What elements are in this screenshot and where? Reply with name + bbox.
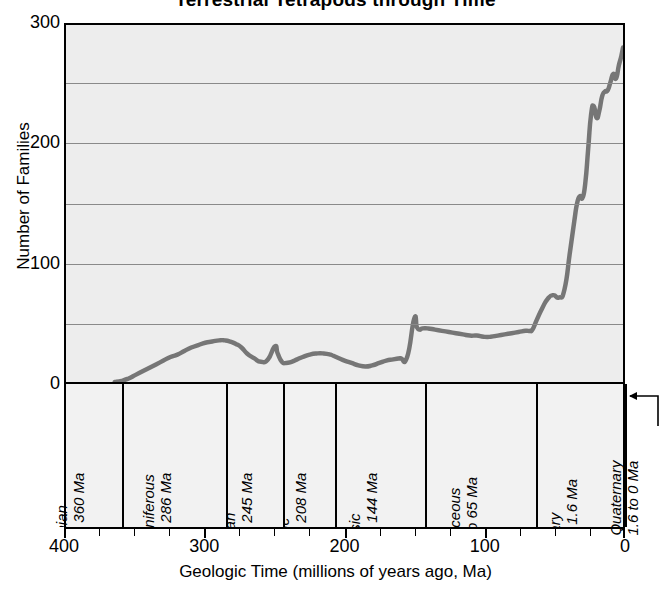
x-minor-tick xyxy=(239,529,240,536)
x-tick-label: 200 xyxy=(305,536,385,557)
period-range: 286 to 245 Ma xyxy=(239,473,256,527)
gridline xyxy=(66,324,623,325)
x-minor-tick xyxy=(99,529,100,536)
plot-area xyxy=(64,23,625,384)
quaternary-leader-arrow-icon xyxy=(628,388,671,428)
x-minor-tick xyxy=(555,529,556,536)
x-minor-tick xyxy=(169,529,170,536)
quaternary-name: Quaternary xyxy=(608,461,625,536)
period-range: 245 to 208 Ma xyxy=(294,473,311,527)
period-range: 144 to 65 Ma xyxy=(465,477,482,527)
period-name: Permian xyxy=(226,473,239,527)
x-minor-tick xyxy=(274,529,275,536)
x-tick-label: 0 xyxy=(585,536,665,557)
x-axis-title: Geologic Time (millions of years ago, Ma… xyxy=(0,562,671,582)
chart-title: Terrestrial Tetrapods through Time xyxy=(0,0,671,11)
period-range: 408 to 360 Ma xyxy=(72,473,89,527)
y-tick-label: 100 xyxy=(16,254,60,272)
x-minor-tick xyxy=(134,529,135,536)
quaternary-range: 1.6 to 0 Ma xyxy=(625,461,642,536)
period-range: 360 to 286 Ma xyxy=(158,473,175,527)
period-name: Devonian xyxy=(55,473,72,527)
period-range: 65 to 1.6 Ma xyxy=(564,479,581,527)
period-cell-carboniferous: Carboniferous360 to 286 Ma xyxy=(122,384,226,527)
data-line xyxy=(115,48,623,382)
period-cell-jurassic: Jurassic208 to 144 Ma xyxy=(335,384,425,527)
x-axis-tick-labels: 4003002001000 xyxy=(0,536,671,562)
x-minor-tick xyxy=(450,529,451,536)
gridline xyxy=(66,264,623,265)
y-axis-tick-labels: 0100200300 xyxy=(8,0,60,594)
gridline xyxy=(66,204,623,205)
period-cell-triassic: Triassic245 to 208 Ma xyxy=(283,384,335,527)
geologic-period-band: Devonian408 to 360 MaCarboniferous360 to… xyxy=(64,384,625,529)
gridline xyxy=(66,83,623,84)
y-tick-label: 0 xyxy=(16,374,60,392)
period-range: 208 to 144 Ma xyxy=(364,473,381,527)
period-name: Tertiary xyxy=(548,479,565,527)
x-minor-tick xyxy=(415,529,416,536)
chart-figure: Terrestrial Tetrapods through Time Numbe… xyxy=(0,0,671,594)
x-tick-label: 400 xyxy=(24,536,104,557)
quaternary-callout: Quaternary 1.6 to 0 Ma xyxy=(628,388,671,538)
x-minor-tick xyxy=(380,529,381,536)
x-minor-tick xyxy=(590,529,591,536)
x-tick-label: 100 xyxy=(445,536,525,557)
period-cell-cretaceous: Cretaceous144 to 65 Ma xyxy=(425,384,536,527)
period-cell-devonian: Devonian408 to 360 Ma xyxy=(55,384,122,527)
period-name: Cretaceous xyxy=(448,477,465,527)
y-tick-label: 200 xyxy=(16,133,60,151)
x-minor-tick xyxy=(520,529,521,536)
gridline xyxy=(66,143,623,144)
x-minor-tick xyxy=(309,529,310,536)
period-name: Carboniferous xyxy=(141,473,158,527)
period-name: Jurassic xyxy=(348,473,365,527)
quaternary-label: Quaternary 1.6 to 0 Ma xyxy=(608,461,642,536)
period-cell-permian: Permian286 to 245 Ma xyxy=(226,384,284,527)
y-tick-label: 300 xyxy=(16,13,60,31)
x-tick-label: 300 xyxy=(164,536,244,557)
